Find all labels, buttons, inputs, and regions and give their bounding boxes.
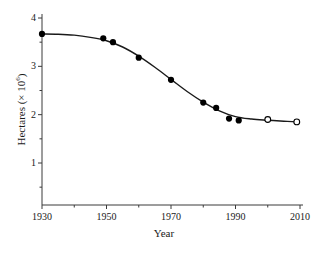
chart-container: 1234 19301950197019902010 Year Hectares … xyxy=(0,0,328,253)
y-axis-tick-label: 4 xyxy=(8,13,36,23)
data-point-projected xyxy=(294,119,300,125)
y-axis-title: Hectares (× 106) xyxy=(16,35,27,185)
x-axis-tick-label: 1930 xyxy=(22,212,62,222)
x-axis-tick-label: 1970 xyxy=(151,212,191,222)
data-point-observed xyxy=(136,55,142,61)
y-axis-title-exponent: 6 xyxy=(14,77,22,81)
data-point-observed xyxy=(226,115,232,121)
y-axis-title-main: Hectares (× 10 xyxy=(15,81,27,146)
data-point-observed xyxy=(236,117,242,123)
x-axis-tick-label: 1990 xyxy=(216,212,256,222)
y-axis-title-close: ) xyxy=(15,74,27,78)
axes xyxy=(38,14,303,209)
data-point-observed xyxy=(213,105,219,111)
data-point-projected xyxy=(265,117,271,123)
x-axis-tick-label: 2010 xyxy=(280,212,320,222)
data-markers xyxy=(39,31,300,125)
x-axis-title: Year xyxy=(0,228,328,239)
data-point-observed xyxy=(110,39,116,45)
data-point-observed xyxy=(100,35,106,41)
data-point-observed xyxy=(200,99,206,105)
data-point-observed xyxy=(39,31,45,37)
data-point-observed xyxy=(168,77,174,83)
x-axis-tick-label: 1950 xyxy=(87,212,127,222)
